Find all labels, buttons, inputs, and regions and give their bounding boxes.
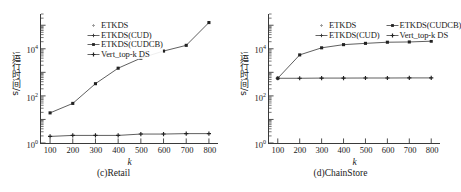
x-tick-label: 500 <box>135 146 148 155</box>
chart-panel-retail: 运行时间/s ETKDS ETKDS(CUD) <box>0 0 227 192</box>
x-tick-label: 700 <box>404 146 417 155</box>
y-tick-label: 102 <box>27 91 39 101</box>
x-tick-label: 700 <box>181 146 194 155</box>
legend-label: Vert_top-k DS <box>400 31 449 40</box>
legend-label: ETKDS <box>101 21 128 30</box>
legend-item-vert-topk-ds: Vert_top-k DS <box>386 31 461 41</box>
chart-panel-chainstore: 运行时间/s ETKDS ETKDS(CUDCB) <box>227 0 454 192</box>
x-tick-label: 500 <box>360 146 373 155</box>
legend-label: ETKDS <box>329 21 356 30</box>
x-tick-label: 300 <box>316 146 329 155</box>
legend-marker-line-plus-icon <box>315 31 328 40</box>
y-tick-label: 104 <box>255 44 267 54</box>
x-tick-label: 600 <box>382 146 395 155</box>
legend-item-vert-topk-ds: Vert_top-k DS <box>87 50 163 60</box>
legend-marker-plus-light-icon <box>315 21 328 30</box>
x-axis-title-retail: k <box>127 157 131 167</box>
x-tick-label: 400 <box>338 146 351 155</box>
x-tick-label: 100 <box>271 146 284 155</box>
x-tick-label: 800 <box>203 146 216 155</box>
y-tick-label: 102 <box>255 91 267 101</box>
plot-area-chainstore: ETKDS ETKDS(CUDCB) ETKDS(CUD) <box>268 14 440 144</box>
panel-caption-retail: (c)Retail <box>0 168 227 178</box>
legend-marker-line-plus-bold-icon <box>386 31 399 40</box>
y-tick-label: 100 <box>27 139 39 149</box>
x-tick-label: 400 <box>112 146 125 155</box>
legend-label: ETKDS(CUDCB) <box>400 21 461 30</box>
legend-marker-line-square-icon <box>87 40 100 49</box>
x-tick-label: 300 <box>89 146 102 155</box>
x-tick-label: 200 <box>67 146 80 155</box>
y-tick-label: 104 <box>27 44 39 54</box>
legend-marker-plus-light-icon <box>87 21 100 30</box>
x-tick-label: 800 <box>426 146 439 155</box>
y-axis-title-retail: 运行时间/s <box>10 52 23 96</box>
legend-item-etkds-cud: ETKDS(CUD) <box>315 31 380 41</box>
y-tick-label: 100 <box>255 139 267 149</box>
legend-chainstore: ETKDS ETKDS(CUDCB) ETKDS(CUD) <box>315 21 461 40</box>
x-tick-label: 100 <box>44 146 57 155</box>
legend-label: Vert_top-k DS <box>101 50 150 59</box>
plot-area-retail: ETKDS ETKDS(CUD) ETKDS(CUDCB) <box>40 14 218 144</box>
x-tick-label: 600 <box>158 146 171 155</box>
legend-marker-line-square-icon <box>386 21 399 30</box>
x-tick-label: 200 <box>293 146 306 155</box>
legend-marker-line-plus-icon <box>87 31 100 40</box>
x-axis-title-chainstore: k <box>352 157 356 167</box>
legend-marker-line-plus-bold-icon <box>87 50 100 59</box>
legend-label: ETKDS(CUD) <box>329 31 380 40</box>
y-axis-title-chainstore: 运行时间/s <box>238 52 251 96</box>
legend-retail: ETKDS ETKDS(CUD) ETKDS(CUDCB) <box>87 21 163 59</box>
panel-caption-chainstore: (d)ChainStore <box>227 168 454 178</box>
